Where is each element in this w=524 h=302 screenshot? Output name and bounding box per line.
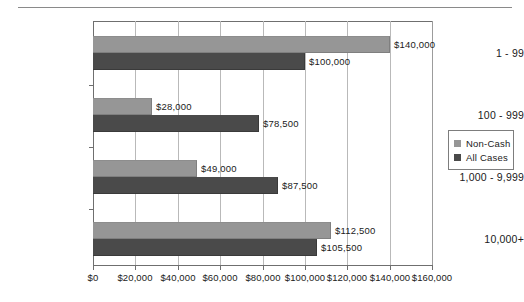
x-axis-tick xyxy=(432,266,433,270)
bar-non-cash xyxy=(93,222,331,239)
x-axis-tick-label: $80,000 xyxy=(245,272,280,283)
category-label: 1 - 99 xyxy=(438,47,524,59)
legend-label-non-cash: Non-Cash xyxy=(466,138,510,149)
chart-legend: Non-Cash All Cases xyxy=(448,130,514,170)
bar-value-label-all-cases: $78,500 xyxy=(263,118,299,129)
page-rule xyxy=(18,7,512,8)
gridline xyxy=(432,21,433,265)
y-axis-tick xyxy=(89,147,94,148)
x-axis-tick xyxy=(135,266,136,270)
bar-all-cases xyxy=(93,53,305,70)
bar-value-label-all-cases: $105,500 xyxy=(321,242,362,253)
bar-chart-figure: $140,000$100,000$28,000$78,500$49,000$87… xyxy=(0,0,524,302)
x-axis-tick-label: $140,000 xyxy=(370,272,410,283)
x-axis-tick-label: $100,000 xyxy=(285,272,325,283)
x-axis-tick-label: $120,000 xyxy=(327,272,367,283)
bar-all-cases xyxy=(93,115,259,132)
category-label: 10,000+ xyxy=(438,233,524,245)
x-axis-tick xyxy=(93,266,94,270)
legend-swatch-all-cases xyxy=(454,154,461,161)
bar-all-cases xyxy=(93,239,317,256)
x-axis-tick-label: $160,000 xyxy=(412,272,452,283)
x-axis-tick xyxy=(347,266,348,270)
x-axis-tick xyxy=(263,266,264,270)
legend-swatch-non-cash xyxy=(454,140,461,147)
bar-non-cash xyxy=(93,36,390,53)
bar-non-cash xyxy=(93,160,197,177)
bar-all-cases xyxy=(93,177,278,194)
clipped-chart-title xyxy=(140,0,230,5)
legend-item-all-cases: All Cases xyxy=(454,150,508,164)
x-axis-tick xyxy=(305,266,306,270)
y-axis-tick xyxy=(89,209,94,210)
x-axis-tick-label: $0 xyxy=(88,272,99,283)
legend-item-non-cash: Non-Cash xyxy=(454,136,508,150)
legend-label-all-cases: All Cases xyxy=(466,152,508,163)
y-axis-tick xyxy=(89,85,94,86)
x-axis-tick-label: $60,000 xyxy=(202,272,237,283)
bar-value-label-non-cash: $140,000 xyxy=(394,39,435,50)
bar-value-label-non-cash: $49,000 xyxy=(201,163,237,174)
x-axis-tick xyxy=(220,266,221,270)
x-axis-tick-label: $40,000 xyxy=(160,272,195,283)
bar-value-label-all-cases: $100,000 xyxy=(309,56,350,67)
gridline xyxy=(390,21,391,265)
x-axis-tick-label: $20,000 xyxy=(117,272,152,283)
bar-value-label-non-cash: $112,500 xyxy=(335,225,376,236)
bar-value-label-non-cash: $28,000 xyxy=(156,101,192,112)
category-label: 100 - 999 xyxy=(438,109,524,121)
x-axis-tick xyxy=(390,266,391,270)
category-label: 1,000 - 9,999 xyxy=(438,171,524,183)
bar-value-label-all-cases: $87,500 xyxy=(282,180,318,191)
x-axis-tick xyxy=(178,266,179,270)
bar-non-cash xyxy=(93,98,152,115)
